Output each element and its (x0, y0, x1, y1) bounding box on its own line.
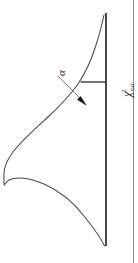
alpha-tail-area-label: α (56, 70, 67, 76)
critical-value-label: χ2v,α (121, 80, 136, 97)
figure-canvas (0, 0, 138, 263)
chi-square-figure: α χ2v,α (0, 0, 138, 263)
page-background (0, 0, 138, 263)
critical-value-superscript: 2 (120, 89, 128, 93)
critical-value-subscript: v,α (128, 83, 136, 91)
